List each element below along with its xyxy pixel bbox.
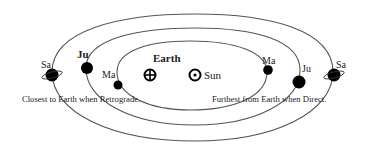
mars-right-label: Ma [262, 55, 276, 66]
sun-icon [190, 70, 201, 81]
saturn-orbit [52, 14, 333, 141]
mars-right-icon [263, 65, 273, 75]
solar-system-diagram: Earth Sun Ma Ju Sa Ma Ju Sa Closest to E… [0, 0, 379, 150]
jupiter-left-icon [81, 62, 93, 74]
mars-left-label: Ma [102, 69, 116, 80]
caption-direct: Furthest from Earth when Direct. [212, 94, 326, 104]
saturn-left-label: Sa [41, 59, 52, 70]
saturn-right-icon [323, 69, 345, 82]
earth-label: Earth [153, 52, 181, 64]
caption-retrograde: Closest to Earth when Retrograde. [22, 94, 140, 104]
saturn-left-icon [41, 69, 63, 82]
mars-left-icon [114, 81, 123, 90]
saturn-right-label: Sa [336, 59, 347, 70]
sun-label: Sun [204, 69, 222, 81]
jupiter-left-label: Ju [77, 48, 89, 60]
jupiter-right-icon [293, 76, 306, 89]
jupiter-right-label: Ju [302, 63, 311, 74]
earth-icon [145, 70, 156, 81]
